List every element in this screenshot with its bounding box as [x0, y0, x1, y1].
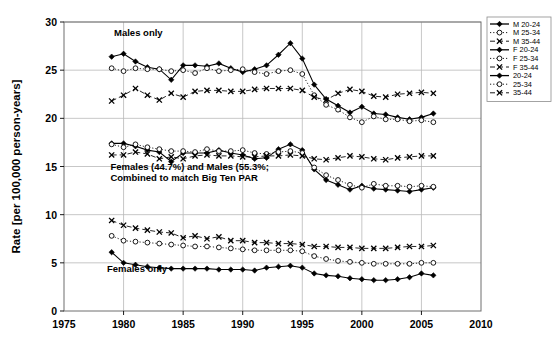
datapoint-25-34-1984	[169, 242, 174, 247]
datapoint-25-34-2001	[371, 261, 376, 266]
ytick-label-25: 25	[45, 64, 57, 76]
datapoint-f-25-34-1988	[216, 149, 221, 154]
datapoint-m-25-34-2002	[383, 117, 388, 122]
datapoint-25-34-2005	[419, 260, 424, 265]
datapoint-m-25-34-1997	[324, 102, 329, 107]
datapoint-f-25-34-1998	[336, 178, 341, 183]
datapoint-f-25-34-2006	[431, 184, 436, 189]
datapoint-25-34-1991	[252, 248, 257, 253]
datapoint-m-25-34-1998	[336, 107, 341, 112]
datapoint-f-25-34-2005	[419, 183, 424, 188]
datapoint-25-34-1996	[312, 254, 317, 259]
datapoint-25-34-1990	[240, 247, 245, 252]
datapoint-m-25-34-1991	[252, 70, 257, 75]
annotation-combined-line1: Females (44.7%) and Males (55.3%;	[110, 161, 268, 172]
rate-by-age-line-chart: 0510152025301975198019851990199520002005…	[0, 0, 553, 348]
datapoint-25-34-1992	[264, 248, 269, 253]
datapoint-m-25-34-1983	[157, 67, 162, 72]
datapoint-25-34-2003	[395, 261, 400, 266]
datapoint-f-25-34-1979	[109, 142, 114, 147]
datapoint-25-34-1994	[288, 248, 293, 253]
ytick-label-0: 0	[51, 305, 57, 317]
datapoint-m-25-34-1994	[288, 68, 293, 73]
datapoint-f-25-34-1997	[324, 173, 329, 178]
datapoint-25-34-1987	[205, 244, 210, 249]
ytick-label-20: 20	[45, 112, 57, 124]
datapoint-25-34-1981	[133, 239, 138, 244]
datapoint-m-25-34-1982	[145, 67, 150, 72]
datapoint-f-25-34-1983	[157, 147, 162, 152]
xtick-label-1980: 1980	[112, 318, 136, 330]
datapoint-m-25-34-1992	[264, 72, 269, 77]
datapoint-m-25-34-1980	[121, 69, 126, 74]
datapoint-25-34-1989	[228, 246, 233, 251]
datapoint-25-34-1995	[300, 249, 305, 254]
legend-marker-open-circle	[497, 56, 502, 61]
xtick-label-2005: 2005	[410, 318, 434, 330]
datapoint-m-25-34-2006	[431, 120, 436, 125]
datapoint-25-34-1993	[276, 248, 281, 253]
datapoint-m-25-34-1984	[169, 69, 174, 74]
chart-background	[0, 0, 553, 348]
datapoint-f-25-34-1999	[348, 182, 353, 187]
datapoint-f-25-34-1980	[121, 145, 126, 150]
datapoint-25-34-1979	[109, 233, 114, 238]
datapoint-m-25-34-1987	[205, 66, 210, 71]
annotation-females-only: Females only	[107, 263, 168, 274]
xtick-label-1975: 1975	[52, 318, 76, 330]
y-axis-label: Rate [per 100,000 person-years]	[10, 79, 22, 253]
datapoint-m-25-34-1993	[276, 69, 281, 74]
datapoint-25-34-1986	[193, 244, 198, 249]
datapoint-m-25-34-2001	[371, 114, 376, 119]
ytick-label-30: 30	[45, 16, 57, 28]
datapoint-m-25-34-1995	[300, 72, 305, 77]
datapoint-25-34-2004	[407, 261, 412, 266]
datapoint-25-34-1982	[145, 240, 150, 245]
legend-marker-open-circle	[497, 30, 502, 35]
datapoint-m-25-34-1979	[109, 66, 114, 71]
legend-label: 35-44	[513, 88, 532, 97]
datapoint-m-25-34-1985	[181, 68, 186, 73]
xtick-label-2010: 2010	[469, 318, 493, 330]
datapoint-25-34-2006	[431, 260, 436, 265]
datapoint-f-25-34-1996	[312, 165, 317, 170]
datapoint-f-25-34-2003	[395, 183, 400, 188]
ytick-label-15: 15	[45, 161, 57, 173]
datapoint-m-25-34-2003	[395, 117, 400, 122]
datapoint-25-34-1988	[216, 245, 221, 250]
datapoint-f-25-34-2001	[371, 181, 376, 186]
annotation-combined-line2: Combined to match Big Ten PAR	[110, 172, 258, 183]
datapoint-m-25-34-2000	[359, 120, 364, 125]
xtick-label-1990: 1990	[231, 318, 255, 330]
datapoint-m-25-34-1986	[193, 71, 198, 76]
datapoint-m-25-34-1988	[216, 69, 221, 74]
datapoint-m-25-34-1990	[240, 67, 245, 72]
datapoint-25-34-1998	[336, 259, 341, 264]
datapoint-25-34-1983	[157, 241, 162, 246]
ytick-label-10: 10	[45, 209, 57, 221]
xtick-label-1985: 1985	[171, 318, 195, 330]
datapoint-25-34-1999	[348, 259, 353, 264]
ytick-label-5: 5	[51, 257, 57, 269]
datapoint-f-25-34-1990	[240, 148, 245, 153]
xtick-label-2000: 2000	[350, 318, 374, 330]
datapoint-25-34-1980	[121, 238, 126, 243]
datapoint-m-25-34-2004	[407, 119, 412, 124]
datapoint-f-25-34-2002	[383, 183, 388, 188]
datapoint-f-25-34-1985	[181, 149, 186, 154]
legend-marker-open-circle	[497, 82, 502, 87]
datapoint-f-25-34-1982	[145, 145, 150, 150]
chart-figure: 0510152025301975198019851990199520002005…	[0, 0, 553, 348]
datapoint-m-25-34-1981	[133, 66, 138, 71]
datapoint-f-25-34-1989	[228, 149, 233, 154]
datapoint-m-25-34-1989	[228, 68, 233, 73]
datapoint-m-25-34-2005	[419, 118, 424, 123]
datapoint-m-25-34-1999	[348, 115, 353, 120]
xtick-label-1995: 1995	[291, 318, 315, 330]
datapoint-f-25-34-2000	[359, 185, 364, 190]
datapoint-25-34-2002	[383, 261, 388, 266]
datapoint-25-34-1997	[324, 257, 329, 262]
datapoint-25-34-2000	[359, 260, 364, 265]
datapoint-f-25-34-1987	[205, 147, 210, 152]
datapoint-f-25-34-1984	[169, 149, 174, 154]
